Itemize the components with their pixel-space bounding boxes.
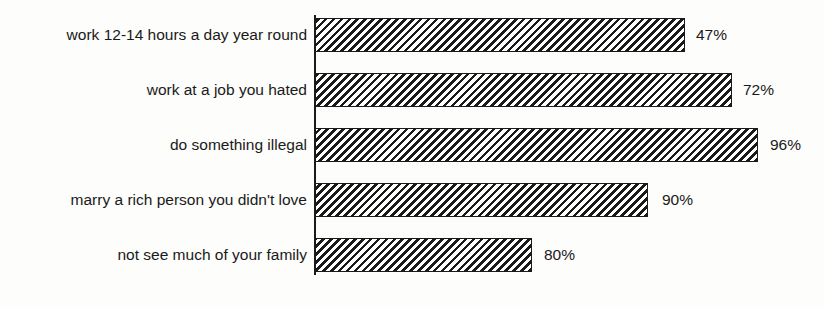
bar: [315, 183, 648, 217]
category-label: not see much of your family: [117, 237, 307, 273]
value-label: 72%: [743, 72, 774, 108]
category-label: do something illegal: [170, 127, 307, 163]
horizontal-bar-chart: work 12-14 hours a day year round 47% wo…: [0, 0, 824, 309]
value-label: 90%: [662, 182, 693, 218]
category-label: work 12-14 hours a day year round: [67, 17, 307, 53]
value-label: 47%: [696, 17, 727, 53]
bar: [315, 18, 685, 52]
category-label: marry a rich person you didn't love: [71, 182, 307, 218]
category-label: work at a job you hated: [147, 72, 307, 108]
bar: [315, 128, 758, 162]
value-label: 96%: [770, 127, 801, 163]
value-label: 80%: [544, 237, 575, 273]
bar: [315, 238, 532, 272]
bar: [315, 73, 732, 107]
